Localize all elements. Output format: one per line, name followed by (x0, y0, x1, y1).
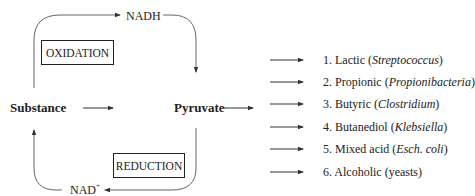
oxidation-box: OXIDATION (41, 40, 114, 65)
product-organism: Esch. coli (396, 142, 443, 156)
oxidation-arc-right (163, 15, 196, 72)
substance-label: Substance (10, 101, 66, 114)
product-name: 2. Propionic ( (323, 75, 389, 89)
product-name: 5. Mixed acid ( (323, 142, 396, 156)
product-name: 6. Alcoholic ( (323, 165, 389, 179)
product-item: 5. Mixed acid (Esch. coli) (323, 143, 448, 155)
reduction-box: REDUCTION (113, 153, 185, 178)
product-organism: Streptococcus (372, 53, 439, 67)
product-organism: Klebsiella (395, 120, 444, 134)
product-item: 1. Lactic (Streptococcus) (323, 54, 443, 66)
reduction-arc-left (34, 130, 62, 190)
product-item: 3. Butyric (Clostridium) (323, 98, 439, 110)
product-organism: Clostridium (378, 97, 435, 111)
product-name: 3. Butyric ( (323, 97, 378, 111)
product-item: 2. Propionic (Propionibacteria) (323, 76, 475, 88)
product-organism: Propionibacteria (389, 75, 471, 89)
product-item: 6. Alcoholic (yeasts) (323, 166, 422, 178)
nadh-label: NADH (126, 10, 161, 22)
product-name: 1. Lactic ( (323, 53, 372, 67)
product-name: 4. Butanediol ( (323, 120, 395, 134)
nad-plus-label: NAD+ (70, 184, 100, 196)
product-item: 4. Butanediol (Klebsiella) (323, 121, 447, 133)
product-organism: yeasts (389, 165, 418, 179)
pyruvate-label: Pyruvate (174, 101, 225, 114)
